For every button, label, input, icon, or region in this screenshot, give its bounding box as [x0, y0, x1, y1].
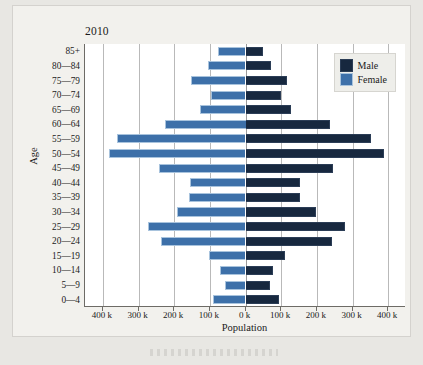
- y-axis-tick-label: 5—9: [61, 280, 80, 290]
- pyramid-row: [85, 134, 405, 143]
- legend-item[interactable]: Male: [340, 58, 387, 72]
- bar-male[interactable]: [246, 266, 274, 275]
- x-axis-tick-label: 300 k: [341, 310, 361, 320]
- pyramid-row: [85, 251, 405, 260]
- chart-legend: MaleFemale: [334, 53, 396, 92]
- pyramid-row: [85, 164, 405, 173]
- bar-female[interactable]: [190, 178, 245, 187]
- x-axis-tick-label: 400 k: [377, 310, 397, 320]
- bar-male[interactable]: [246, 207, 317, 216]
- y-axis-tick-label: 65—69: [52, 105, 80, 115]
- bar-male[interactable]: [246, 237, 333, 246]
- y-axis-tick-label: 20—24: [52, 236, 80, 246]
- pyramid-row: [85, 105, 405, 114]
- bar-male[interactable]: [246, 178, 300, 187]
- bar-male[interactable]: [246, 76, 288, 85]
- bar-male[interactable]: [246, 164, 333, 173]
- scanned-page: 2010 Age 85+80—8475—7970—7465—6960—6455—…: [13, 6, 410, 336]
- x-axis-tick-label: 100 k: [270, 310, 290, 320]
- pyramid-row: [85, 295, 405, 304]
- legend-label: Female: [358, 74, 387, 85]
- bar-male[interactable]: [246, 251, 285, 260]
- x-axis-tick-label: 300 k: [127, 310, 147, 320]
- bar-male[interactable]: [246, 120, 331, 129]
- bar-female[interactable]: [165, 120, 245, 129]
- pyramid-row: [85, 222, 405, 231]
- bar-male[interactable]: [246, 91, 282, 100]
- y-axis-tick-label: 0—4: [61, 295, 80, 305]
- x-axis-tick-label: 0 k: [239, 310, 250, 320]
- y-axis-tick-label: 15—19: [52, 251, 80, 261]
- bar-female[interactable]: [117, 134, 245, 143]
- bar-female[interactable]: [220, 266, 246, 275]
- bar-male[interactable]: [246, 193, 300, 202]
- y-axis-tick-label: 60—64: [52, 119, 80, 129]
- chart-title: 2010: [85, 25, 109, 37]
- bar-male[interactable]: [246, 222, 345, 231]
- pyramid-row: [85, 193, 405, 202]
- bar-male[interactable]: [246, 134, 372, 143]
- bar-male[interactable]: [246, 105, 292, 114]
- bar-female[interactable]: [200, 105, 246, 114]
- scan-artifact-smudge: [150, 349, 278, 356]
- x-axis-tick-label: 100 k: [199, 310, 219, 320]
- bar-female[interactable]: [213, 295, 246, 304]
- x-axis-tick-label: 200 k: [306, 310, 326, 320]
- y-axis-tick-label: 70—74: [52, 90, 80, 100]
- pyramid-row: [85, 120, 405, 129]
- plot-area: MaleFemale: [84, 44, 405, 307]
- bar-female[interactable]: [211, 91, 246, 100]
- y-axis-tick-label: 80—84: [52, 61, 80, 71]
- y-axis-tick-label: 30—34: [52, 207, 80, 217]
- legend-label: Male: [358, 60, 379, 71]
- pyramid-row: [85, 281, 405, 290]
- x-axis-tick-label: 200 k: [163, 310, 183, 320]
- y-axis-tick-label: 50—54: [52, 149, 80, 159]
- pyramid-row: [85, 178, 405, 187]
- pyramid-row: [85, 237, 405, 246]
- legend-swatch-male: [340, 59, 353, 72]
- pyramid-row: [85, 266, 405, 275]
- bar-female[interactable]: [218, 47, 246, 56]
- bar-female[interactable]: [148, 222, 245, 231]
- bar-male[interactable]: [246, 295, 280, 304]
- bar-male[interactable]: [246, 61, 272, 70]
- bar-female[interactable]: [159, 164, 245, 173]
- y-axis-tick-label: 40—44: [52, 178, 80, 188]
- x-axis-tick-label: 400 k: [92, 310, 112, 320]
- bar-female[interactable]: [177, 207, 245, 216]
- bar-female[interactable]: [161, 237, 246, 246]
- y-axis-tick-label: 35—39: [52, 192, 80, 202]
- bar-male[interactable]: [246, 281, 270, 290]
- legend-item[interactable]: Female: [340, 72, 387, 86]
- y-axis-tick-label: 45—49: [52, 163, 80, 173]
- bar-female[interactable]: [189, 193, 245, 202]
- y-axis-tick-label: 75—79: [52, 76, 80, 86]
- bar-female[interactable]: [209, 251, 245, 260]
- y-axis-tick-labels: 85+80—8475—7970—7465—6960—6455—5950—5445…: [13, 44, 80, 307]
- bar-female[interactable]: [208, 61, 245, 70]
- y-axis-tick-label: 10—14: [52, 265, 80, 275]
- y-axis-tick-label: 55—59: [52, 134, 80, 144]
- pyramid-row: [85, 149, 405, 158]
- bar-male[interactable]: [246, 149, 384, 158]
- x-axis-title: Population: [84, 322, 405, 333]
- bar-male[interactable]: [246, 47, 263, 56]
- bar-female[interactable]: [191, 76, 245, 85]
- bar-female[interactable]: [225, 281, 246, 290]
- y-axis-tick-label: 85+: [65, 46, 80, 56]
- bar-female[interactable]: [109, 149, 245, 158]
- pyramid-row: [85, 207, 405, 216]
- y-axis-tick-label: 25—29: [52, 222, 80, 232]
- legend-swatch-female: [340, 73, 353, 86]
